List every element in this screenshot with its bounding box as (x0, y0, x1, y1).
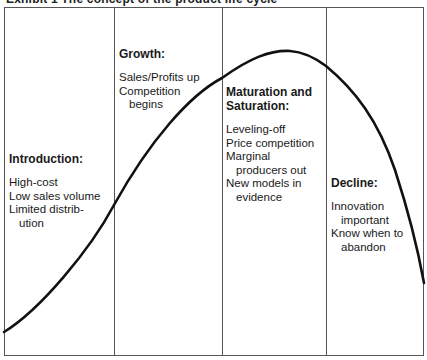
stage-point: Marginal (226, 150, 314, 164)
stage-point: ution (9, 217, 100, 231)
stage-heading-line: Maturation and (226, 85, 314, 99)
stage-heading: Maturation and Saturation: (226, 85, 314, 113)
stage-point: Know when to (331, 227, 403, 241)
stage-point: Price competition (226, 137, 314, 151)
stage-heading-line: Saturation: (226, 99, 314, 113)
stage-point: Limited distrib- (9, 203, 100, 217)
stage-growth: Growth: Sales/Profits up Competition beg… (119, 47, 200, 112)
stage-heading: Growth: (119, 47, 200, 61)
stage-point: Sales/Profits up (119, 71, 200, 85)
stage-point: abandon (331, 241, 403, 255)
stage-introduction: Introduction: High-cost Low sales volume… (9, 152, 100, 230)
stage-point: important (331, 214, 403, 228)
stage-decline: Decline: Innovation important Know when … (331, 176, 403, 254)
stage-point: Competition (119, 85, 200, 99)
stage-point: begins (119, 98, 200, 112)
stage-heading: Introduction: (9, 152, 100, 166)
stage-heading: Decline: (331, 176, 403, 190)
stage-point: Innovation (331, 200, 403, 214)
stage-point: High-cost (9, 176, 100, 190)
stage-point: Low sales volume (9, 190, 100, 204)
stage-point: Leveling-off (226, 123, 314, 137)
stage-point: producers out (226, 164, 314, 178)
stage-maturation: Maturation and Saturation: Leveling-off … (226, 85, 314, 205)
stage-point: New models in (226, 177, 314, 191)
stage-point: evidence (226, 191, 314, 205)
